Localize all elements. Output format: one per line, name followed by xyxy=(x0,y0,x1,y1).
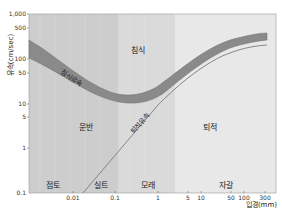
bg-sand xyxy=(118,14,175,193)
chart-svg: 1,000 500 100 50 10 5 1 0.1 유속(cm/sec) 0… xyxy=(0,0,282,215)
y-tick-50: 50 xyxy=(18,69,26,76)
x-tick-300: 300 xyxy=(259,194,271,201)
y-tick-100: 100 xyxy=(15,55,27,62)
x-tick-50: 50 xyxy=(227,194,235,201)
y-tick-5: 5 xyxy=(22,113,26,120)
class-clay: 점토 xyxy=(46,180,60,190)
x-tick-1: 1 xyxy=(156,194,160,201)
region-erosion: 침식 xyxy=(131,46,145,55)
y-tick-0.1: 0.1 xyxy=(16,189,26,196)
y-tick-1: 1 xyxy=(22,144,26,151)
y-axis-label: 유속(cm/sec) xyxy=(7,34,15,77)
x-tick-5: 5 xyxy=(186,194,190,201)
x-tick-100: 100 xyxy=(238,194,250,201)
region-transport: 운반 xyxy=(79,123,94,132)
hjulstrom-chart: 1,000 500 100 50 10 5 1 0.1 유속(cm/sec) 0… xyxy=(0,0,282,215)
region-deposition: 퇴적 xyxy=(203,122,217,132)
bg-clay-silt xyxy=(29,14,118,193)
class-silt: 실트 xyxy=(94,180,108,190)
y-tick-10: 10 xyxy=(18,100,26,107)
y-tick-1000: 1,000 xyxy=(9,10,26,17)
y-tick-500: 500 xyxy=(15,24,27,31)
class-sand: 모래 xyxy=(141,181,155,190)
x-axis-label: 입경(mm) xyxy=(246,200,277,209)
x-tick-0.1: 0.1 xyxy=(110,194,120,201)
x-tick-10: 10 xyxy=(197,194,205,201)
x-tick-0.01: 0.01 xyxy=(66,194,80,201)
class-gravel: 자갈 xyxy=(219,181,234,190)
